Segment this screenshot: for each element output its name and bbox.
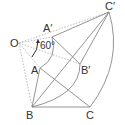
label-Aprime: A′ bbox=[43, 22, 52, 34]
edge-AprimeCprime bbox=[52, 12, 109, 37]
label-A: A bbox=[31, 64, 39, 76]
rotation-arrow-icon bbox=[32, 41, 38, 57]
label-B: B bbox=[26, 109, 33, 121]
edge-BprimeCprime bbox=[80, 12, 109, 64]
edge-AprimeBprime bbox=[52, 37, 80, 64]
label-Cprime: C′ bbox=[105, 0, 115, 12]
rotation-diagram: O A′ C′ 60° A B′ B C bbox=[0, 0, 125, 125]
label-C: C bbox=[86, 109, 94, 121]
dotted-construction-lines bbox=[19, 12, 109, 107]
label-O: O bbox=[10, 37, 19, 49]
label-angle: 60° bbox=[40, 40, 55, 51]
label-Bprime: B′ bbox=[81, 64, 90, 76]
arc-C-Cprime bbox=[90, 12, 114, 107]
line-O-Cprime bbox=[19, 12, 109, 43]
